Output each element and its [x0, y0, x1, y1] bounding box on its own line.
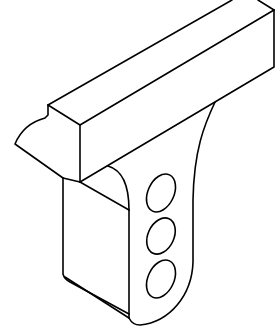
rectangular-bar [48, 0, 274, 182]
hole-1 [141, 169, 181, 216]
holes [141, 169, 181, 302]
hole-3 [141, 255, 181, 302]
hole-2 [141, 213, 181, 258]
drawing-canvas: Isometric line drawing of a bracket with… [0, 0, 279, 329]
